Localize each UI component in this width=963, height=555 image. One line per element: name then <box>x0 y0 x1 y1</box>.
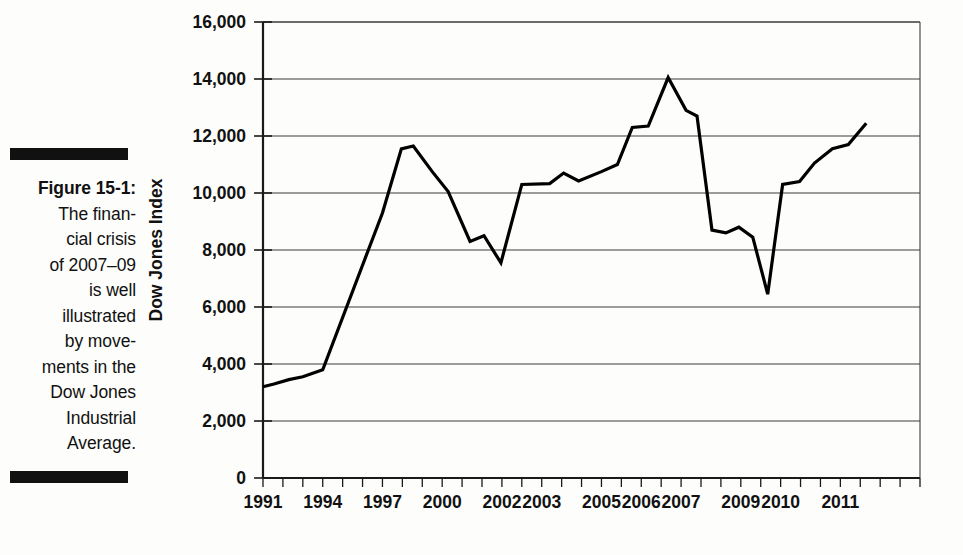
y-tick-label: 0 <box>236 468 246 488</box>
x-tick-label: 1994 <box>303 492 342 512</box>
caption-line-4: is well <box>0 278 136 304</box>
x-tick-label: 2003 <box>522 492 561 512</box>
x-tick-label: 1991 <box>244 492 283 512</box>
x-tick-label: 2002 <box>482 492 521 512</box>
x-tick-label: 2000 <box>423 492 462 512</box>
x-tick-label: 2007 <box>662 492 701 512</box>
figure-caption-text: Figure 15-1: The finan- cial crisis of 2… <box>0 176 152 457</box>
caption-line-10: Average. <box>0 431 136 457</box>
y-tick-label: 2,000 <box>202 411 246 431</box>
y-tick-label: 14,000 <box>192 69 246 89</box>
x-tick-label: 2011 <box>821 492 859 512</box>
y-tick-label: 4,000 <box>202 354 246 374</box>
line-chart-plot: 02,0004,0006,0008,00010,00012,00014,0001… <box>152 0 963 545</box>
x-tick-label: 2010 <box>761 492 800 512</box>
y-tick-label: 8,000 <box>202 240 246 260</box>
caption-line-3: of 2007–09 <box>0 253 136 279</box>
x-minor-tick-group <box>263 478 920 487</box>
caption-line-6: by move- <box>0 329 136 355</box>
caption-line-5: illustrated <box>0 304 136 330</box>
caption-line-2: cial crisis <box>0 227 136 253</box>
gridline-group <box>263 22 920 421</box>
y-tick-label: 10,000 <box>192 183 246 203</box>
y-tick-label: 6,000 <box>202 297 246 317</box>
x-tick-label-group: 1991199419972000200220032005200620072009… <box>244 492 860 512</box>
y-tick-label: 12,000 <box>192 126 246 146</box>
chart-container: Dow Jones Index 02,0004,0006,0008,00010,… <box>152 0 963 545</box>
caption-line-9: Industrial <box>0 406 136 432</box>
figure-page: Figure 15-1: The finan- cial crisis of 2… <box>0 0 963 555</box>
y-tick-label: 16,000 <box>192 12 246 32</box>
dow-jones-data-line <box>263 78 866 387</box>
x-tick-label: 2005 <box>582 492 621 512</box>
caption-rule-bottom <box>10 471 128 483</box>
caption-line-8: Dow Jones <box>0 380 136 406</box>
figure-number-label: Figure 15-1: <box>0 176 136 202</box>
x-tick-label: 2009 <box>721 492 760 512</box>
figure-caption-block: Figure 15-1: The finan- cial crisis of 2… <box>0 148 152 483</box>
caption-line-7: ments in the <box>0 355 136 381</box>
y-tick-label-group: 02,0004,0006,0008,00010,00012,00014,0001… <box>192 12 246 488</box>
caption-line-1: The finan- <box>0 202 136 228</box>
x-tick-label: 1997 <box>363 492 402 512</box>
caption-rule-top <box>10 148 128 160</box>
x-tick-label: 2006 <box>622 492 661 512</box>
